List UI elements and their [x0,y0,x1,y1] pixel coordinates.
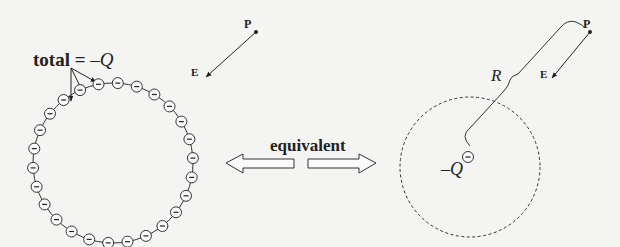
radius-brace [465,21,585,146]
point-charge-label: –Q [440,159,463,179]
total-charge-label: total = –Q [33,49,114,70]
right-hollow-arrow-icon [308,154,376,173]
right-panel: R –Q P E [400,17,592,237]
point-p-label: P [583,17,590,31]
equivalence-indicator: equivalent [226,136,376,173]
label-pointer-arrows [71,68,96,101]
left-hollow-arrow-icon [226,154,294,173]
gaussian-sphere-dashed [400,97,540,237]
field-arrow-icon [552,32,590,78]
surface-charge-icon [103,237,114,247]
surface-charges [28,78,199,247]
field-e-label: E [540,68,547,80]
point-p-label: P [244,17,251,31]
field-e-label: E [191,66,198,78]
radius-label: R [490,66,502,85]
left-panel: total = –Q P E [28,17,258,247]
equivalence-diagram: total = –Q P E equivalent R –Q P [0,0,620,247]
equivalent-label: equivalent [270,136,346,155]
field-arrow-icon [206,32,256,77]
